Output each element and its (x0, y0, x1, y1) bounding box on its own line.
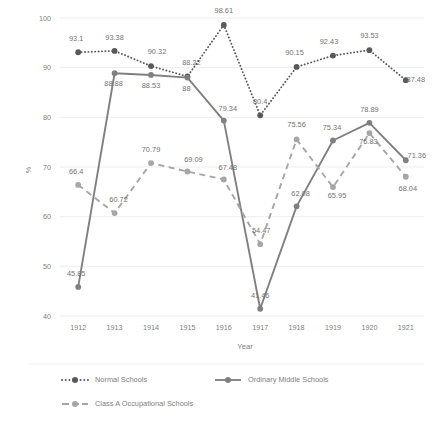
x-tick-label: 1920 (361, 323, 377, 332)
data-point-marker (112, 70, 118, 76)
data-label: 78.89 (360, 105, 379, 114)
legend-marker (72, 401, 78, 407)
data-point-marker (257, 112, 263, 118)
data-label: 54.47 (252, 226, 271, 235)
y-tick-label: 60 (43, 212, 51, 221)
y-tick-label: 40 (43, 312, 51, 321)
x-axis-title: Year (237, 342, 253, 351)
data-label: 88 (182, 84, 190, 93)
data-label: 75.56 (287, 120, 306, 129)
data-label: 66.4 (69, 167, 83, 176)
x-tick-label: 1919 (325, 323, 341, 332)
y-tick-label: 70 (43, 163, 51, 172)
data-point-marker (367, 120, 373, 126)
data-point-marker (221, 22, 227, 28)
data-point-marker (75, 182, 81, 188)
chart-legend: Normal SchoolsOrdinary Middle SchoolsCla… (28, 364, 424, 408)
gridlines (60, 18, 424, 316)
x-tick-label: 1916 (216, 323, 232, 332)
data-label: 98.61 (215, 6, 234, 15)
legend-item-ordinary-middle-schools[interactable]: Ordinary Middle Schools (215, 375, 329, 384)
x-tick-label: 1913 (107, 323, 123, 332)
data-point-marker (148, 72, 154, 78)
data-label: 41.46 (251, 291, 270, 300)
x-tick-label: 1917 (252, 323, 268, 332)
data-label: 80.4 (253, 97, 267, 106)
legend-item-class-a-occupational-schools[interactable]: Class A Occupational Schools (62, 399, 193, 408)
y-tick-label: 80 (43, 113, 51, 122)
legend-marker (225, 377, 231, 383)
y-tick-label: 50 (43, 262, 51, 271)
data-label: 75.34 (323, 123, 342, 132)
legend-label: Class A Occupational Schools (95, 399, 193, 408)
data-point-marker (367, 130, 373, 136)
data-point-marker (330, 184, 336, 190)
data-label: 45.85 (67, 269, 86, 278)
data-point-marker (330, 53, 336, 59)
data-point-marker (403, 174, 409, 180)
data-label: 67.48 (219, 163, 238, 172)
series-line-ordinary-middle-schools (78, 73, 406, 309)
y-axis-tick-labels: 405060708090100 (39, 14, 51, 321)
series-line-class-a-occupational-schools (78, 133, 406, 244)
x-tick-label: 1918 (289, 323, 305, 332)
data-label: 87.48 (407, 75, 426, 84)
data-point-marker (112, 210, 118, 216)
data-point-marker (148, 63, 154, 69)
data-label: 90.15 (285, 48, 304, 57)
chart-canvas: 405060708090100 191219131914191519161917… (0, 0, 435, 426)
data-point-marker (330, 138, 336, 144)
data-label: 88.88 (104, 79, 123, 88)
data-point-marker (221, 177, 227, 183)
data-point-marker (148, 160, 154, 166)
x-tick-label: 1915 (179, 323, 195, 332)
data-label: 88.22 (182, 58, 201, 67)
data-label: 68.04 (399, 184, 418, 193)
x-tick-label: 1914 (143, 323, 159, 332)
data-label: 93.1 (69, 34, 83, 43)
x-tick-label: 1912 (70, 323, 86, 332)
data-label: 60.72 (109, 195, 128, 204)
series-line-normal-schools (78, 25, 406, 115)
data-label: 62.08 (291, 189, 310, 198)
x-axis-tick-labels: 1912191319141915191619171918191919201921 (70, 323, 414, 332)
data-point-marker (221, 118, 227, 124)
data-label: 69.09 (184, 155, 203, 164)
data-point-marker (112, 48, 118, 54)
data-point-marker (257, 241, 263, 247)
data-point-marker (185, 169, 191, 175)
data-point-marker (294, 203, 300, 209)
data-label: 92.43 (320, 37, 339, 46)
data-label: 76.83 (359, 137, 378, 146)
data-point-marker (294, 136, 300, 142)
legend-label: Ordinary Middle Schools (248, 375, 329, 384)
legend-marker (72, 377, 78, 383)
data-label: 70.79 (142, 145, 161, 154)
data-label: 93.53 (360, 31, 379, 40)
legend-item-normal-schools[interactable]: Normal Schools (62, 375, 147, 384)
x-tick-label: 1921 (398, 323, 414, 332)
y-axis-title: % (24, 166, 33, 173)
data-label: 71.36 (408, 151, 427, 160)
data-label: 93.38 (105, 33, 124, 42)
data-point-marker (75, 49, 81, 55)
y-tick-label: 100 (39, 14, 51, 23)
data-point-marker (75, 284, 81, 290)
data-point-marker (257, 306, 263, 312)
data-label: 88.53 (142, 81, 161, 90)
data-point-marker (294, 64, 300, 70)
data-point-marker (367, 47, 373, 53)
y-tick-label: 90 (43, 63, 51, 72)
data-label: 65.95 (328, 191, 347, 200)
data-label: 79.34 (219, 104, 238, 113)
legend-label: Normal Schools (95, 375, 147, 384)
line-chart: 405060708090100 191219131914191519161917… (0, 0, 435, 426)
data-label: 90.32 (148, 47, 167, 56)
data-point-marker (185, 75, 191, 81)
